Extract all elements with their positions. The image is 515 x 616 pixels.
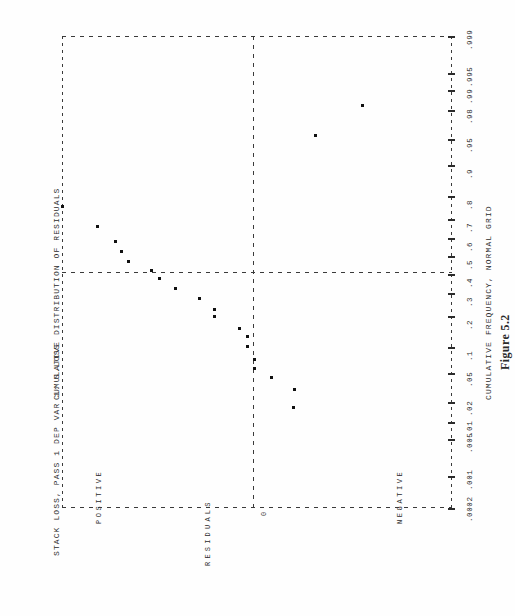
probability-tick-label: .6 [466, 242, 474, 252]
data-point [292, 406, 295, 409]
figure-caption: Figure 5.2 [496, 314, 514, 370]
probability-tick-label: .1 [466, 351, 474, 361]
data-point [270, 376, 273, 379]
probability-tick-label: .4 [466, 278, 474, 288]
residuals-axis-label-text: RESIDUALS [205, 499, 212, 566]
residuals-axis-label: RESIDUALS [205, 566, 275, 588]
probability-axis [451, 36, 452, 508]
probability-tick-label: .95 [466, 138, 474, 153]
probability-tick [448, 238, 455, 240]
data-point [174, 287, 177, 290]
data-point [61, 205, 64, 208]
probability-tick [448, 196, 455, 198]
plot-top-border [62, 36, 452, 37]
data-point [213, 315, 216, 318]
probability-tick-label: .99 [466, 89, 474, 104]
probability-tick-label: .999 [466, 30, 474, 50]
probability-tick [448, 219, 455, 221]
median-probability-line [253, 36, 254, 508]
top-axis-title-text: CUMULATIVE DISTRIBUTION OF RESIDUALS [52, 188, 61, 400]
data-point [213, 308, 216, 311]
probability-tick-label: .7 [466, 222, 474, 232]
data-point [314, 134, 317, 137]
bottom-axis-title-text: CUMULATIVE FREQUENCY, NORMAL GRID [484, 205, 493, 400]
probability-tick [448, 347, 455, 349]
probability-tick [448, 256, 455, 258]
probability-tick [448, 422, 455, 424]
probability-tick [448, 373, 455, 375]
probability-tick [448, 402, 455, 404]
probability-tick [448, 90, 455, 92]
probability-tick-label: .3 [466, 297, 474, 307]
data-point [198, 297, 201, 300]
data-point [238, 327, 241, 330]
figure-page: STACK LOSS, PASS 1 DEP VAR 1: S.LOSS CUM… [0, 0, 515, 616]
plot-bottom-border [62, 507, 452, 508]
probability-tick [448, 508, 455, 510]
data-point [246, 345, 249, 348]
probability-tick-label: .05 [466, 372, 474, 387]
probability-tick-label: .005 [466, 433, 474, 453]
probability-tick-label: .0002 [466, 496, 474, 522]
data-point [150, 269, 153, 272]
probability-tick-label: .5 [466, 260, 474, 270]
probability-tick [448, 139, 455, 141]
bottom-axis-title: CUMULATIVE FREQUENCY, NORMAL GRID [478, 205, 496, 400]
probability-tick-label: .9 [466, 169, 474, 179]
data-point [158, 277, 161, 280]
zero-label: 0 [253, 509, 271, 516]
data-point [361, 104, 364, 107]
probability-tick [448, 110, 455, 112]
probability-tick-label: .2 [466, 320, 474, 330]
probability-tick-label: .02 [466, 401, 474, 416]
probability-tick [448, 36, 455, 38]
probability-tick-label: .8 [466, 200, 474, 210]
data-point [246, 335, 249, 338]
probability-tick [448, 293, 455, 295]
data-point [293, 388, 296, 391]
probability-tick-label: .001 [466, 470, 474, 490]
probability-tick-label: .995 [466, 66, 474, 86]
data-point [253, 358, 256, 361]
plot-left-border [62, 36, 63, 508]
probability-tick [448, 439, 455, 441]
zero-residual-line [62, 272, 452, 273]
data-point [114, 240, 117, 243]
probability-tick [448, 165, 455, 167]
figure-caption-text: Figure 5.2 [498, 314, 512, 370]
plot-area: .0002.001.005.01.02.05.1.2.3.4.5.6.7.8.9… [62, 36, 452, 508]
probability-tick [448, 73, 455, 75]
data-point [120, 250, 123, 253]
probability-tick-label: .01 [466, 420, 474, 435]
data-point [127, 260, 130, 263]
probability-tick [448, 476, 455, 478]
probability-tick [448, 274, 455, 276]
probability-tick [448, 316, 455, 318]
probability-tick-label: .98 [466, 108, 474, 123]
data-point [253, 367, 256, 370]
zero-label-text: 0 [260, 509, 268, 516]
data-point [96, 225, 99, 228]
